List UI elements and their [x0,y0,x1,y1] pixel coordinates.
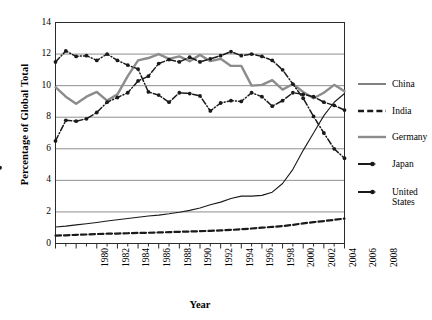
x-tick-label: 1986 [162,248,172,288]
x-tick-label: 1996 [265,248,275,288]
legend-key-icon [357,186,387,198]
x-tick-label: 1984 [141,248,151,288]
legend-key-icon [357,158,387,170]
legend-key-icon [357,105,387,117]
legend-item-japan[interactable]: Japan [357,158,432,173]
legend-item-germany[interactable]: Germany [357,131,432,146]
chart-figure: Percentage of Global Total 14121086420 1… [0,0,432,320]
x-tick-label: 2004 [348,248,358,288]
x-tick-label: 1990 [203,248,213,288]
x-tick-label: 1998 [286,248,296,288]
legend-item-china[interactable]: China [357,78,432,93]
x-tick-label: 2008 [389,248,399,288]
legend-label: Japan [392,158,414,170]
x-tick-label: 1988 [183,248,193,288]
legend-label: Germany [392,131,427,143]
x-tick-label: 1982 [121,248,131,288]
legend-item-united-states[interactable]: United States [357,186,432,201]
legend-label: China [392,78,415,90]
x-tick-label: 2000 [306,248,316,288]
x-tick-label: 2006 [368,248,378,288]
x-tick-label: 1992 [224,248,234,288]
x-tick-label: 2002 [327,248,337,288]
legend-key-icon [357,78,387,90]
x-axis-title: Year [55,299,345,310]
chart-legend: ChinaIndiaGermanyJapanUnited States [357,78,432,214]
legend-label: United States [392,186,430,208]
legend-label: India [392,105,412,117]
x-tick-label: 1994 [245,248,255,288]
legend-key-icon [357,131,387,143]
legend-item-india[interactable]: India [357,105,432,120]
x-tick-label: 1980 [100,248,110,288]
